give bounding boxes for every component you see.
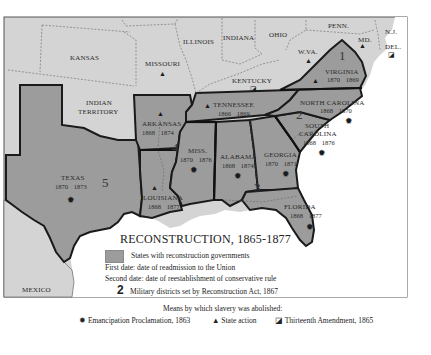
label-kentucky: KENTUCKY [232,77,272,85]
emancipation-proclamation-icon: ✹ [234,172,242,181]
emancipation-proclamation-icon: ✹ [306,223,314,232]
label-texas: TEXAS [61,174,85,182]
legend-title: RECONSTRUCTION, 1865-1877 [120,232,291,247]
label-penn: PENN. [328,22,349,30]
emancipation-proclamation-icon: ✹ [79,316,86,325]
label-indian-territory-2: TERRITORY [78,108,119,116]
label-indiana: INDIANA [223,34,254,42]
label-del: DEL. [385,43,401,51]
south-carolina-dates: 1868 1876 [303,139,335,146]
label-indian-territory: INDIAN [86,99,112,107]
state-action-icon: ▲ [359,42,366,51]
label-virginia: VIRGINIA [325,68,358,76]
label-louisiana: LOUISIANA [143,194,183,202]
label-south-carolina: SOUTH [305,122,329,130]
label-nj: N.J. [385,28,397,36]
label-alabama: ALABAMA [220,153,257,161]
texas-dates: 1870 1873 [55,183,87,190]
state-action-icon: ▲ [159,70,166,79]
emancipation-proclamation-icon: ✹ [190,166,198,175]
legend-emancipation: ✹ Emancipation Proclamation, 1863 [79,316,190,325]
label-missouri: MISSOURI [145,60,180,68]
label-kansas: KANSAS [70,54,99,62]
legend-thirteenth-amendment: ◪ Thirteenth Amendment, 1865 [275,316,373,325]
legend-first-date: First date: date of readmission to the U… [105,263,235,272]
florida-dates: 1868 1877 [290,212,322,219]
label-north-carolina: NORTH CAROLINA [300,99,364,107]
state-action-icon: ▲ [157,110,164,119]
district-number-2: 2 [296,107,303,123]
tennessee-dates: 1866 1869 [218,110,250,117]
district-number-5: 5 [102,175,109,191]
label-tennessee: TENNESSEE [213,101,254,109]
legend-state-action: ▲ State action [212,316,257,325]
state-action-icon: ▲ [151,184,158,193]
label-mexico: MEXICO [22,286,51,294]
alabama-dates: 1868 1874 [222,162,254,169]
legend-district-number: 2 [117,283,124,297]
district-number-4: 4 [172,140,179,156]
georgia-dates: 1870 1871 [265,160,297,167]
emancipation-proclamation-icon: ✹ [67,196,75,205]
thirteenth-amendment-icon: ◪ [388,51,395,60]
district-number-3: 3 [254,180,261,196]
label-arkansas: ARKANSAS [142,120,181,128]
label-mississippi: MISS. [188,147,207,155]
thirteenth-amendment-icon: ◪ [250,85,257,94]
arkansas-dates: 1868 1874 [142,129,174,136]
label-ohio: OHIO [269,31,287,39]
label-south-carolina-2: CAROLINA [299,130,337,138]
emancipation-proclamation-icon: ✹ [345,117,353,126]
mississippi-dates: 1870 1876 [180,156,212,163]
label-wva: W.VA. [298,48,318,56]
state-action-icon: ▲ [212,316,219,325]
state-action-icon: ▲ [305,57,312,66]
legend-swatch [105,250,124,263]
state-action-icon: ▲ [204,102,211,111]
label-georgia: GEORGIA [264,151,297,159]
district-number-1: 1 [339,48,346,64]
legend-swatch-label: States with reconstruction governments [131,251,250,260]
legend-second-date: Second date: date of reestablishment of … [105,274,276,283]
north-carolina-dates: 1868 1870 [320,107,352,114]
thirteenth-amendment-icon: ◪ [275,316,283,325]
louisiana-dates: 1868 1877 [148,203,180,210]
emancipation-proclamation-icon: ✹ [282,170,290,179]
label-illinois: ILLINOIS [183,38,214,46]
label-florida: FLORIDA [284,203,316,211]
virginia-dates: 1870 1869 [327,76,359,83]
legend-district-label: Military districts set by Reconstruction… [130,287,278,296]
emancipation-proclamation-icon: ✹ [318,149,326,158]
state-action-icon: ▲ [312,77,319,86]
legend-means-heading: Means by which slavery was abolished: [163,304,282,313]
